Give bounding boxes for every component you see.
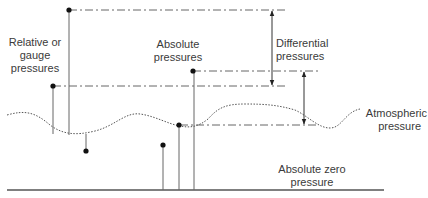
pressure-diagram [0, 0, 428, 198]
label-absolute-zero: Absolute zero pressure [272, 163, 352, 189]
label-differential-line2: pressures [276, 50, 328, 63]
label-relative-line2: gauge [6, 49, 64, 62]
label-atmospheric-pressure: Atmospheric pressure [361, 107, 427, 133]
label-absolute-line2: pressures [152, 51, 204, 64]
label-absolute-zero-line2: pressure [272, 176, 352, 189]
label-relative-line1: Relative or [6, 36, 64, 49]
point-absolute-high [190, 68, 195, 73]
atmospheric-pressure-wave [7, 104, 360, 134]
point-negative-gauge [83, 148, 88, 153]
point-atmospheric [176, 122, 181, 127]
label-differential-line1: Differential [276, 37, 328, 50]
label-relative-line3: pressures [6, 62, 64, 75]
label-relative-gauge: Relative or gauge pressures [6, 36, 64, 75]
label-absolute-pressures: Absolute pressures [152, 38, 204, 64]
label-differential-pressures: Differential pressures [276, 37, 328, 63]
label-atmospheric-line1: Atmospheric [361, 107, 427, 120]
label-absolute-line1: Absolute [152, 38, 204, 51]
point-relative [50, 83, 55, 88]
point-absolute-low [160, 142, 165, 147]
point-top [66, 7, 71, 12]
label-absolute-zero-line1: Absolute zero [272, 163, 352, 176]
label-atmospheric-line2: pressure [361, 120, 427, 133]
